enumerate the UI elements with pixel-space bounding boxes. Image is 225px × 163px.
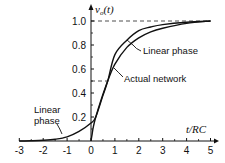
svg-text:phase: phase [34, 115, 60, 126]
svg-text:Linear phase: Linear phase [143, 45, 198, 56]
x-tick-label: -1 [63, 145, 72, 156]
annotation-linear-phase-upper: Linear phase [127, 40, 198, 56]
x-axis-title: t/RC [186, 123, 207, 135]
x-tick-label: 5 [208, 145, 214, 156]
y-tick-label: 0.4 [72, 88, 86, 99]
x-tick-label: 3 [160, 145, 166, 156]
x-tick-label: 0 [88, 145, 94, 156]
x-tick-label: -2 [39, 145, 48, 156]
x-tick-label: 2 [136, 145, 142, 156]
x-tick-label: -3 [15, 145, 24, 156]
y-tick-label: 0.6 [72, 64, 86, 75]
svg-text:Linear: Linear [34, 104, 60, 115]
y-tick-label: 0.8 [72, 40, 86, 51]
svg-text:Actual network: Actual network [124, 73, 187, 84]
y-axis-title: vo(t) [95, 3, 114, 17]
annotation-actual-network: Actual network [114, 68, 187, 84]
step-response-chart: -3-2-1012345 0.20.40.60.81.0 vo(t) t/RC … [0, 0, 225, 163]
annotation-linear-phase-lower: Linear phase [34, 104, 62, 134]
x-tick-label: 4 [184, 145, 190, 156]
x-axis-arrow-icon [214, 139, 219, 144]
y-tick-label: 0.2 [72, 112, 86, 123]
y-tick-label: 1.0 [72, 16, 86, 27]
x-tick-label: 1 [112, 145, 118, 156]
y-axis-arrow-icon [89, 4, 94, 10]
leader-line [114, 68, 123, 77]
